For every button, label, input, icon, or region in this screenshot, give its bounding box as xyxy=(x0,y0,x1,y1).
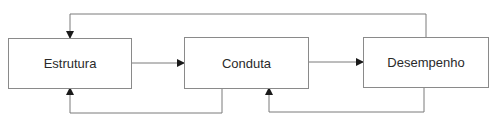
node-label: Estrutura xyxy=(44,56,97,71)
node-desempenho: Desempenho xyxy=(363,37,489,88)
node-label: Conduta xyxy=(222,56,271,71)
edge-desempenho-estrutura-top xyxy=(70,14,426,38)
edge-conduta-estrutura-bottom xyxy=(70,88,222,113)
node-label: Desempenho xyxy=(387,55,464,70)
edge-desempenho-conduta-bottom xyxy=(269,87,424,112)
node-estrutura: Estrutura xyxy=(8,38,132,89)
node-conduta: Conduta xyxy=(184,37,309,89)
